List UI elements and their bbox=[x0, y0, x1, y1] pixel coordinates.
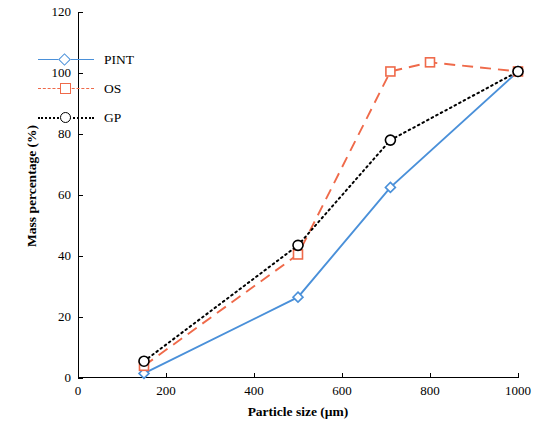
data-point bbox=[294, 250, 303, 259]
x-tick-label: 1000 bbox=[505, 383, 531, 399]
y-tick bbox=[78, 378, 83, 379]
y-tick-label: 20 bbox=[58, 309, 71, 325]
y-tick-label: 60 bbox=[58, 187, 71, 203]
legend-label: PINT bbox=[104, 53, 134, 67]
legend-swatch-icon bbox=[38, 81, 94, 97]
y-tick-label: 120 bbox=[52, 4, 72, 20]
x-axis-label: Particle size (µm) bbox=[78, 404, 518, 420]
legend-label: OS bbox=[104, 82, 121, 96]
plot-area: 02004006008001000 020406080100120 bbox=[78, 12, 518, 378]
x-tick-label: 200 bbox=[156, 383, 176, 399]
chart-legend: PINTOSGP bbox=[38, 45, 134, 132]
series-gp bbox=[139, 66, 523, 366]
series-pint bbox=[139, 66, 523, 378]
series-plot bbox=[78, 12, 518, 378]
legend-swatch-icon bbox=[38, 110, 94, 126]
chart-container: 02004006008001000 020406080100120 Partic… bbox=[0, 0, 534, 430]
y-tick-label: 40 bbox=[58, 248, 71, 264]
legend-item-gp[interactable]: GP bbox=[38, 103, 134, 132]
data-point bbox=[385, 135, 395, 145]
y-tick-label: 0 bbox=[65, 370, 72, 386]
legend-label: GP bbox=[104, 111, 121, 125]
data-point bbox=[426, 58, 435, 67]
data-point bbox=[386, 67, 395, 76]
data-point bbox=[513, 66, 523, 76]
legend-item-os[interactable]: OS bbox=[38, 74, 134, 103]
legend-item-pint[interactable]: PINT bbox=[38, 45, 134, 74]
x-tick-label: 600 bbox=[332, 383, 352, 399]
x-tick-label: 400 bbox=[244, 383, 264, 399]
legend-swatch-icon bbox=[38, 52, 94, 68]
data-point bbox=[139, 356, 149, 366]
series-os bbox=[140, 58, 523, 370]
data-point bbox=[293, 240, 303, 250]
x-tick-label: 0 bbox=[75, 383, 82, 399]
x-tick bbox=[518, 373, 519, 378]
x-tick-label: 800 bbox=[420, 383, 440, 399]
